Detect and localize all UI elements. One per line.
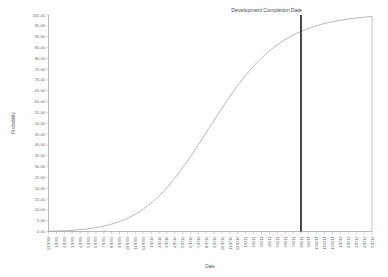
y-axis-title: Probability (11, 112, 16, 134)
x-tick-label: 7/1/10 (196, 236, 201, 248)
x-tick-label: 4/1/10 (172, 236, 177, 248)
x-tick-label: 12/1/08 (46, 236, 51, 250)
x-tick-label: 7/1/09 (101, 236, 106, 248)
x-tick-label: 11/1/11 (322, 236, 327, 250)
x-tick-label: 3/1/12 (354, 236, 359, 248)
x-tick-label: 4/1/09 (78, 236, 83, 248)
x-tick-label: 9/1/11 (306, 236, 311, 248)
x-tick-label: 4/1/12 (362, 236, 367, 248)
y-tick-label: 10.00 (35, 207, 46, 212)
x-tick-label: 10/1/11 (314, 236, 319, 250)
x-axis-tick-labels: 12/1/081/1/092/1/093/1/094/1/095/1/096/1… (46, 236, 375, 250)
x-tick-label: 6/1/11 (283, 236, 288, 248)
y-tick-label: 90.00 (35, 34, 46, 39)
y-tick-label: 80.00 (35, 56, 46, 61)
x-tick-label: 11/1/09 (133, 236, 138, 250)
y-tick-label: 25.00 (35, 175, 46, 180)
x-tick-label: 10/1/09 (125, 236, 130, 250)
y-tick-label: 5.00 (37, 218, 46, 223)
x-tick-label: 5/1/11 (275, 236, 280, 248)
x-tick-label: 2/1/11 (251, 236, 256, 248)
x-tick-label: 8/1/10 (204, 236, 209, 248)
x-tick-label: 6/1/10 (188, 236, 193, 248)
y-tick-label: 20.00 (35, 186, 46, 191)
y-tick-label: 70.00 (35, 77, 46, 82)
y-tick-label: 65.00 (35, 88, 46, 93)
y-tick-label: 45.00 (35, 132, 46, 137)
x-tick-label: 3/1/09 (70, 236, 75, 248)
x-tick-label: 4/1/11 (267, 236, 272, 248)
x-tick-label: 9/1/09 (117, 236, 122, 248)
y-tick-label: 0.00 (37, 229, 46, 234)
x-tick-label: 5/1/09 (86, 236, 91, 248)
y-tick-label: 60.00 (35, 99, 46, 104)
x-axis-tick-marks (49, 232, 373, 235)
y-tick-label: 50.00 (35, 121, 46, 126)
x-tick-label: 12/1/11 (330, 236, 335, 250)
y-axis-tick-labels: 100.0095.0090.0085.0080.0075.0070.0065.0… (32, 13, 45, 235)
x-tick-label: 3/1/10 (164, 236, 169, 248)
x-tick-label: 6/1/09 (93, 236, 98, 248)
x-tick-label: 7/1/11 (291, 236, 296, 248)
x-tick-label: 5/1/10 (180, 236, 185, 248)
x-tick-label: 1/1/12 (338, 236, 343, 248)
y-tick-label: 100.00 (32, 13, 45, 18)
x-tick-label: 8/1/11 (299, 236, 304, 248)
x-tick-label: 1/1/11 (243, 236, 248, 248)
y-tick-label: 75.00 (35, 67, 46, 72)
cumulative-probability-curve (49, 16, 373, 231)
y-tick-label: 40.00 (35, 142, 46, 147)
y-tick-label: 85.00 (35, 45, 46, 50)
y-tick-label: 95.00 (35, 23, 46, 28)
x-tick-label: 8/1/09 (109, 236, 114, 248)
y-tick-label: 35.00 (35, 153, 46, 158)
x-tick-label: 2/1/12 (346, 236, 351, 248)
x-axis-title: Date (205, 264, 215, 269)
x-tick-label: 12/1/09 (141, 236, 146, 250)
development-completion-date-label: Development Completion Date (231, 7, 302, 13)
chart-canvas: 100.0095.0090.0085.0080.0075.0070.0065.0… (0, 0, 388, 277)
x-tick-label: 11/1/10 (228, 236, 233, 250)
x-tick-label: 5/1/12 (370, 236, 375, 248)
x-tick-label: 2/1/09 (62, 236, 67, 248)
x-tick-label: 10/1/10 (220, 236, 225, 250)
x-tick-label: 2/1/10 (157, 236, 162, 248)
y-tick-label: 30.00 (35, 164, 46, 169)
x-tick-label: 3/1/11 (259, 236, 264, 248)
y-tick-label: 15.00 (35, 197, 46, 202)
x-tick-label: 12/1/10 (235, 236, 240, 250)
probability-s-curve-chart: 100.0095.0090.0085.0080.0075.0070.0065.0… (0, 0, 388, 277)
x-tick-label: 1/1/10 (149, 236, 154, 248)
y-tick-label: 55.00 (35, 110, 46, 115)
x-tick-label: 9/1/10 (212, 236, 217, 248)
x-tick-label: 1/1/09 (54, 236, 59, 248)
